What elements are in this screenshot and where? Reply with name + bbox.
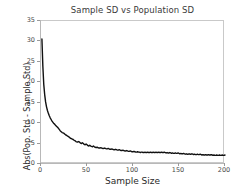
y-tick-mark bbox=[37, 20, 40, 21]
x-tick-label: 100 bbox=[126, 166, 138, 174]
x-axis-label: Sample Size bbox=[40, 176, 225, 186]
x-tick-label: 0 bbox=[38, 166, 42, 174]
y-tick-mark bbox=[37, 81, 40, 82]
x-tick-label: 200 bbox=[218, 166, 230, 174]
y-tick-mark bbox=[37, 61, 40, 62]
plot-area bbox=[40, 20, 224, 163]
chart-title: Sample SD vs Population SD bbox=[40, 5, 225, 15]
data-series-line bbox=[41, 21, 225, 164]
x-tick-label: 50 bbox=[82, 166, 90, 174]
y-tick-mark bbox=[37, 102, 40, 103]
y-axis-spine bbox=[40, 20, 41, 164]
y-tick-mark bbox=[37, 143, 40, 144]
x-tick-label: 150 bbox=[172, 166, 184, 174]
y-tick-mark bbox=[37, 122, 40, 123]
chart-figure: Sample SD vs Population SD 0510152025303… bbox=[0, 0, 243, 192]
y-axis-label-wrapper: Abs(Pop. Std - Sample Std) bbox=[10, 20, 24, 163]
y-axis-label: Abs(Pop. Std - Sample Std) bbox=[23, 52, 32, 182]
y-tick-mark bbox=[37, 40, 40, 41]
